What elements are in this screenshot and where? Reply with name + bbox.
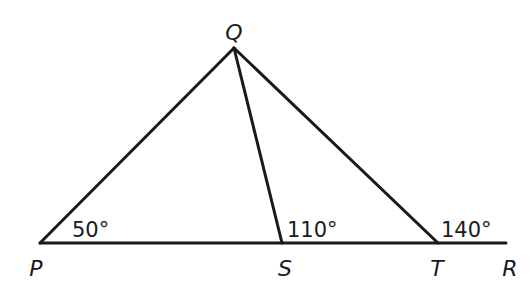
point-label-q: Q: [225, 20, 242, 45]
point-label-r: R: [502, 256, 517, 281]
point-label-p: P: [29, 256, 43, 281]
angle-label-s: 110°: [287, 218, 338, 242]
triangle-diagram: Q P S T R 50° 110° 140°: [0, 0, 532, 295]
segment-pq: [40, 48, 234, 243]
point-label-t: T: [430, 256, 445, 281]
angle-label-p: 50°: [72, 218, 109, 242]
segment-qs: [234, 48, 282, 243]
angle-label-t: 140°: [441, 218, 492, 242]
point-label-s: S: [278, 256, 292, 281]
segment-qt: [234, 48, 438, 243]
